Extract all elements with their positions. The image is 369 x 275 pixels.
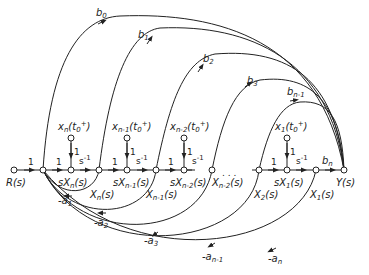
ic-gain: 1 — [290, 147, 296, 157]
gain-1: 1 — [168, 157, 174, 167]
ic-gain: 1 — [187, 147, 193, 157]
gain-1: 1 — [271, 157, 277, 167]
label-sX1: sX1(s) — [274, 177, 304, 190]
ic-gain: 1 — [74, 147, 80, 157]
gain-1: 1 — [28, 157, 34, 167]
gain-bn: bn — [322, 155, 333, 168]
label-Xn-1: Xn-1(s) — [145, 189, 177, 202]
gain-1: 1 — [56, 157, 62, 167]
label-X2: X2(s) — [253, 189, 278, 202]
label-R: R(s) — [6, 177, 26, 188]
ic-x1: x1(t0+) — [274, 120, 307, 134]
label-sXn-1: sXn-1(s) — [113, 177, 150, 190]
label-X1: X1(s) — [309, 189, 334, 202]
gain-bn-1: bn-1 — [287, 86, 305, 99]
nodes — [11, 135, 347, 173]
gain-a3: -a3 — [144, 235, 158, 248]
ic-gain: 1 — [130, 147, 136, 157]
gain-an-1: -an-1 — [202, 251, 223, 264]
label-Xn: Xn(s) — [89, 189, 114, 202]
gain-s-inv: s-1 — [79, 154, 91, 166]
gain-s-inv: s-1 — [136, 154, 148, 166]
gain-b3: b3 — [247, 75, 258, 88]
node-Y — [341, 167, 347, 173]
gain-1: 1 — [112, 157, 118, 167]
signal-flow-graph: . . . 1 1 s-1 1 s-1 1 s-1 1 s-1 bn 1 1 1… — [0, 0, 369, 275]
gain-an: -an — [268, 253, 282, 266]
label-Y: Y(s) — [336, 177, 355, 188]
ic-xn: xn(t0+) — [57, 120, 90, 134]
gain-b1: b1 — [138, 29, 149, 42]
gain-s-inv: s-1 — [192, 154, 204, 166]
ic-xn-1: xn-1(t0+) — [111, 120, 151, 134]
gain-a2: -a2 — [94, 217, 109, 230]
label-Xn-2: Xn-2(s) — [211, 177, 243, 190]
ic-xn-2: xn-2(t0+) — [169, 120, 209, 134]
node-R — [11, 167, 17, 173]
gain-s-inv: s-1 — [296, 154, 308, 166]
gain-b0: b0 — [96, 7, 107, 20]
initial-condition-branches — [71, 140, 287, 170]
